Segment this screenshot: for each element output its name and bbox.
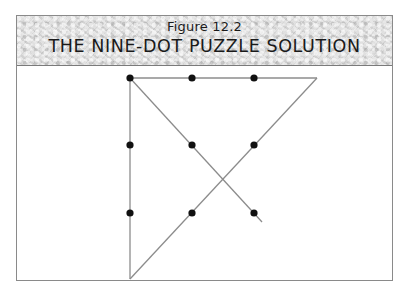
solution-line-segment — [130, 78, 262, 222]
nine-dot-diagram — [0, 0, 410, 296]
puzzle-dot — [188, 209, 195, 216]
puzzle-dot — [126, 74, 133, 81]
puzzle-dot — [188, 141, 195, 148]
puzzle-dot — [250, 74, 257, 81]
puzzle-dot — [126, 141, 133, 148]
solution-lines — [130, 78, 317, 279]
puzzle-dot — [188, 74, 195, 81]
puzzle-dot — [250, 141, 257, 148]
puzzle-dot — [126, 209, 133, 216]
puzzle-dot — [250, 209, 257, 216]
